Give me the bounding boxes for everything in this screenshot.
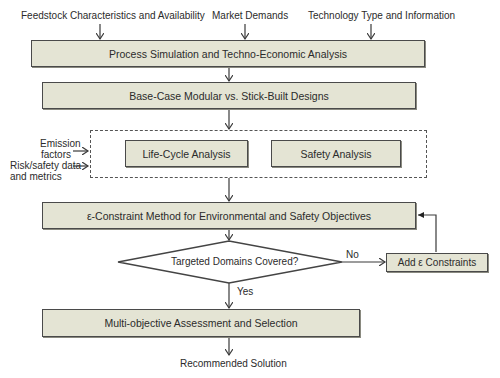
no-branch-label: No [346, 249, 359, 260]
base-case-box: Base-Case Modular vs. Stick-Built Design… [42, 82, 416, 109]
input-feedstock: Feedstock Characteristics and Availabili… [21, 10, 205, 21]
recommended-solution-label: Recommended Solution [180, 358, 287, 369]
input-market-demands: Market Demands [212, 10, 288, 21]
epsilon-constraint-box: ε-Constraint Method for Environmental an… [42, 202, 416, 229]
process-simulation-box: Process Simulation and Techno-Economic A… [31, 40, 425, 67]
input-technology: Technology Type and Information [308, 10, 455, 21]
add-constraints-box: Add ε Constraints [386, 253, 488, 272]
risk-safety-label: Risk/safety data and metrics [10, 160, 81, 182]
safety-analysis-box: Safety Analysis [271, 140, 401, 167]
lca-box: Life-Cycle Analysis [125, 140, 248, 167]
multi-objective-box: Multi-objective Assessment and Selection [42, 309, 360, 337]
yes-branch-label: Yes [237, 286, 253, 297]
decision-label: Targeted Domains Covered? [171, 256, 298, 267]
emission-factors-label: Emission factors [40, 138, 81, 160]
